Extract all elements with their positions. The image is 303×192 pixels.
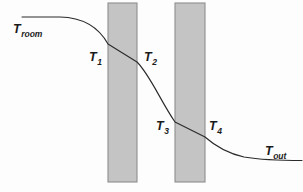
label-t-room-base: T — [13, 22, 21, 36]
wall-layer-1 — [108, 3, 137, 182]
wall-layer-2 — [175, 3, 205, 182]
figure-background — [0, 0, 303, 192]
label-t3-subscript: 3 — [164, 126, 169, 136]
label-t2: T2 — [144, 48, 156, 64]
label-t3-base: T — [156, 119, 164, 133]
label-t-out-subscript: out — [273, 151, 286, 161]
label-t1-subscript: 1 — [97, 57, 102, 67]
label-t4: T4 — [209, 117, 221, 133]
figure-canvas — [0, 0, 303, 192]
label-t2-subscript: 2 — [152, 57, 157, 67]
label-t1: T1 — [89, 48, 101, 64]
label-t4-base: T — [209, 119, 217, 133]
temperature-profile-figure: Troom T1 T2 T3 T4 Tout — [0, 0, 303, 192]
label-t3: T3 — [156, 117, 168, 133]
label-t2-base: T — [144, 50, 152, 64]
label-t-out-base: T — [265, 144, 273, 158]
label-t-out: Tout — [265, 142, 286, 158]
label-t1-base: T — [89, 50, 97, 64]
label-t-room: Troom — [13, 20, 42, 36]
label-t-room-subscript: room — [21, 29, 42, 39]
label-t4-subscript: 4 — [217, 126, 222, 136]
